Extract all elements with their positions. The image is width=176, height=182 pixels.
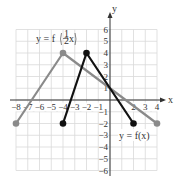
data-point <box>154 120 161 127</box>
svg-text:x: x <box>69 33 74 44</box>
y-axis-label: y <box>112 3 117 14</box>
data-point <box>130 120 137 127</box>
y-tick-label: 4 <box>104 48 109 58</box>
y-tick-label: 5 <box>104 36 109 46</box>
y-tick-label: 3 <box>104 60 109 70</box>
x-axis-arrow-icon <box>160 98 166 103</box>
data-point <box>60 50 67 57</box>
y-tick-label: −2 <box>98 119 108 129</box>
y-tick-label: −3 <box>98 130 108 140</box>
label-f-x: y = f(x) <box>119 130 150 142</box>
x-tick-label: −5 <box>46 102 56 112</box>
data-point <box>60 120 67 127</box>
y-tick-label: −1 <box>98 107 108 117</box>
label-f-half-x: y = f 1 2 x <box>36 28 76 47</box>
axes: x y <box>10 3 173 176</box>
y-tick-label: 6 <box>104 25 109 35</box>
y-tick-label: −5 <box>98 154 108 164</box>
y-tick-label: −6 <box>98 166 108 176</box>
x-tick-label: 4 <box>155 102 160 112</box>
data-point <box>13 120 20 127</box>
x-tick-label: 3 <box>143 102 148 112</box>
x-tick-label: −8 <box>11 102 21 112</box>
x-tick-label: −6 <box>35 102 45 112</box>
svg-text:y = f: y = f <box>36 33 56 44</box>
x-tick-label: −2 <box>82 102 92 112</box>
x-axis-label: x <box>168 94 173 105</box>
y-tick-label: −4 <box>98 142 108 152</box>
function-transformation-graph: x y −8−7−6−5−4−3−2−1234654321−1−2−3−4−5−… <box>0 0 176 182</box>
data-point <box>83 50 90 57</box>
x-tick-label: −3 <box>70 102 80 112</box>
